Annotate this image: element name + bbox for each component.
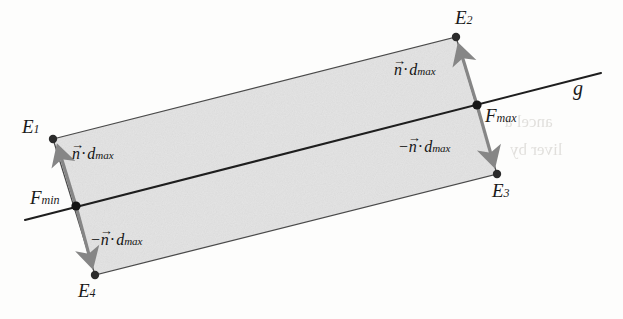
point-dot-fmin	[71, 201, 80, 210]
vector-label-n-dmax-right: →n·dmax	[394, 62, 436, 78]
point-label-fmin-letter: F	[30, 187, 42, 208]
n-vector-icon: →n	[409, 139, 417, 155]
point-label-e1-letter: E	[22, 116, 34, 137]
point-dot-fmax	[472, 100, 481, 109]
point-label-e4: E4	[78, 281, 96, 300]
vector-label-sub-1: max	[124, 235, 142, 247]
n-vector-icon: →n	[72, 146, 80, 162]
n-vector-icon: →n	[394, 62, 402, 78]
point-label-fmin: Fmin	[30, 188, 60, 207]
vector-label-minus-n-dmax-left: −→n·dmax	[90, 232, 142, 248]
point-label-e3: E3	[492, 181, 510, 200]
point-label-e3-letter: E	[492, 180, 504, 201]
n-vector-icon: →n	[101, 232, 109, 248]
point-label-fmax: Fmax	[485, 106, 517, 125]
point-label-e4-letter: E	[78, 280, 90, 301]
vector-label-sub-0: max	[95, 149, 113, 161]
vector-arrow-glyph-3: →	[408, 131, 420, 144]
point-dot-e1	[49, 135, 57, 143]
vector-label-sub-2: max	[417, 65, 435, 77]
point-label-fmax-sub: max	[497, 111, 517, 125]
point-label-fmin-sub: min	[42, 193, 60, 207]
figure-canvas: ancel a liver by E1 E2 E3 E4 Fmin Fmax g…	[0, 0, 623, 319]
point-dot-e3	[493, 170, 501, 178]
vector-arrow-glyph-1: →	[100, 224, 112, 237]
point-label-e1: E1	[22, 117, 40, 136]
point-label-e2: E2	[455, 8, 473, 27]
vector-arrow-glyph-2: →	[393, 54, 405, 67]
bleed-through-text-lower: liver by	[510, 140, 562, 160]
vector-label-sub-3: max	[432, 142, 450, 154]
vector-arrow-glyph-0: →	[71, 138, 83, 151]
line-label-g: g	[573, 78, 583, 98]
point-label-e2-letter: E	[455, 7, 467, 28]
point-label-e4-sub: 4	[90, 286, 96, 300]
point-label-fmax-letter: F	[485, 105, 497, 126]
point-label-e3-sub: 3	[504, 186, 510, 200]
point-label-e1-sub: 1	[34, 122, 40, 136]
vector-label-d-1: d	[116, 231, 124, 248]
point-label-e2-sub: 2	[467, 13, 473, 27]
vector-label-d-3: d	[424, 138, 432, 155]
point-dot-e4	[91, 271, 99, 279]
vector-label-n-dmax-left: →n·dmax	[72, 146, 114, 162]
point-dot-e2	[452, 33, 460, 41]
vector-label-minus-n-dmax-right: −→n·dmax	[398, 139, 450, 155]
